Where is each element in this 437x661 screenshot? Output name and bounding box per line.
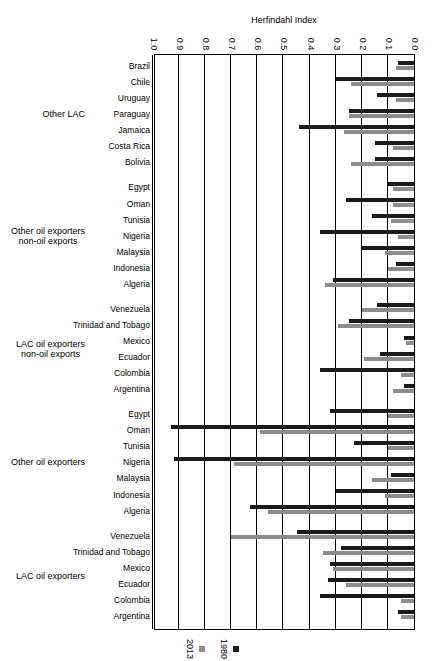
bar-2013 [333,567,414,571]
bar-2013 [388,446,414,450]
category-label: Paraguay [114,110,150,119]
bar-1980 [349,319,414,323]
legend-swatch-1980 [233,646,239,652]
bar-1980 [320,594,414,598]
x-tick-label: 0.8 [201,38,211,51]
bar-2013 [323,551,414,555]
bar-row [155,178,414,194]
category-label: Mexico [123,337,150,346]
bar-row [155,607,414,623]
bar-2013 [325,283,414,287]
bar-1980 [404,336,414,340]
category-label: Nigeria [123,231,150,240]
bar-1980 [336,77,414,81]
rotated-figure-container: 1980 2013 0.00.10.20.30.40.50.60.70.80.9… [0,0,437,661]
category-label: Mexico [123,564,150,573]
bar-row [155,121,414,137]
category-label: Indonesia [113,490,150,499]
bar-1980 [375,141,414,145]
bar-2013 [231,535,414,539]
category-label: Uruguay [118,94,150,103]
bar-1980 [346,198,414,202]
category-label: Trinidad and Tobago [73,321,150,330]
bar-1980 [250,505,414,509]
bar-1980 [375,157,414,161]
category-label: Tunisia [123,215,150,224]
category-label: Egypt [128,410,150,419]
x-tick-label: 0.7 [227,38,237,51]
bar-1980 [174,457,414,461]
category-label: Trinidad and Tobago [73,547,150,556]
category-label: Venezuela [110,305,150,314]
bar-1980 [320,368,414,372]
group-label: Other LAC [42,109,85,119]
bar-row [155,469,414,485]
bar-row [155,591,414,607]
x-axis-title: Herfindahl Index [204,15,364,25]
bar-1980 [388,182,414,186]
bar-row [155,243,414,259]
bar-row [155,348,414,364]
bar-2013 [344,130,414,134]
category-label: Chile [131,78,150,87]
bar-1980 [396,262,414,266]
category-label: Egypt [128,183,150,192]
bar-row [155,211,414,227]
bar-row [155,259,414,275]
bar-2013 [396,66,414,70]
group-label-line: Other oil exporters [11,457,85,467]
category-label: Ecuador [118,353,150,362]
bar-2013 [385,251,414,255]
bar-2013 [351,82,414,86]
bar-1980 [354,441,414,445]
bar-2013 [393,187,414,191]
bar-row [155,575,414,591]
bar-row [155,105,414,121]
category-label: Costa Rica [108,142,150,151]
x-tick-label: 0.6 [253,38,263,51]
bar-row [155,405,414,421]
bar-row [155,486,414,502]
category-label: Ecuador [118,580,150,589]
category-label: Oman [127,199,150,208]
chart-legend: 1980 2013 [185,639,239,659]
legend-label-1980: 1980 [219,639,229,659]
group-label-line: LAC oil exporters [16,339,85,349]
bar-1980 [320,230,414,234]
legend-item-1980: 1980 [219,639,239,659]
bar-2013 [406,341,414,345]
bar-row [155,195,414,211]
bar-2013 [398,235,414,239]
bar-2013 [349,114,414,118]
bar-1980 [349,109,414,113]
group-label: LAC oil exportersnon-oil exports [16,339,85,360]
category-label: Indonesia [113,264,150,273]
bar-row [155,453,414,469]
bar-2013 [388,414,414,418]
group-label: Other oil exportersnon-oil exports [11,225,85,246]
legend-swatch-2013 [199,646,205,652]
group-label: Other oil exporters [11,457,85,467]
bar-row [155,437,414,453]
bar-2013 [396,98,414,102]
bar-1980 [297,530,414,534]
bar-1980 [404,384,414,388]
bar-row [155,57,414,73]
bar-2013 [391,219,414,223]
category-label: Brazil [129,62,150,71]
bar-2013 [401,615,414,619]
bar-1980 [330,409,414,413]
bar-row [155,137,414,153]
bar-2013 [260,430,414,434]
bar-2013 [388,267,414,271]
bar-1980 [377,303,414,307]
bar-row [155,559,414,575]
bar-2013 [401,373,414,377]
bar-row [155,332,414,348]
bar-row [155,275,414,291]
x-tick-label: 0.0 [410,38,420,51]
bar-1980 [380,352,414,356]
plot-area [154,54,415,630]
bar-2013 [393,203,414,207]
bar-row [155,502,414,518]
